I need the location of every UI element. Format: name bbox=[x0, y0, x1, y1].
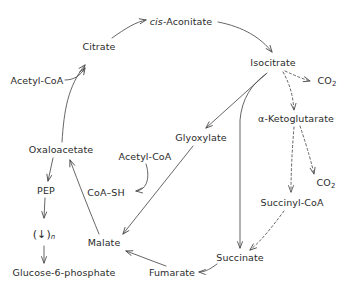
node-citrate: Citrate bbox=[83, 42, 116, 52]
edge-oxaloacetate-to-citrate bbox=[62, 65, 85, 142]
node-co2-top: CO2 bbox=[318, 76, 337, 88]
node-pep: PEP bbox=[37, 186, 55, 196]
node-coa-sh: CoA–SH bbox=[87, 188, 124, 198]
node-co2-bottom: CO2 bbox=[317, 178, 336, 190]
edge-acetyl-coa-top-to-citrate bbox=[65, 68, 85, 80]
node-alpha-ketoglutarate: α-Ketoglutarate bbox=[258, 114, 334, 124]
node-acetyl-coa-mid: Acetyl-CoA bbox=[119, 152, 172, 162]
edge-alpha-ketoglutarate-to-succinyl-coa bbox=[291, 127, 294, 192]
node-glyoxylate: Glyoxylate bbox=[175, 133, 226, 143]
edge-pep-to-repeat-steps bbox=[44, 198, 45, 218]
node-succinate: Succinate bbox=[216, 253, 263, 263]
edge-isocitrate-to-co2-top bbox=[285, 71, 310, 81]
node-cis-aconitate-prefix: cis bbox=[150, 16, 163, 27]
node-succinyl-coa: Succinyl-CoA bbox=[261, 198, 324, 208]
node-co2-bottom-label: CO bbox=[317, 177, 331, 188]
node-fumarate: Fumarate bbox=[149, 268, 195, 278]
pathway-diagram: cis-Aconitate Citrate Isocitrate Acetyl-… bbox=[0, 0, 345, 286]
edge-isocitrate-to-succinate bbox=[240, 74, 266, 248]
node-co2-top-subscript: 2 bbox=[332, 80, 337, 88]
node-isocitrate: Isocitrate bbox=[250, 58, 295, 68]
node-repeat-steps: (↓)n bbox=[33, 229, 56, 242]
node-oxaloacetate: Oxaloacetate bbox=[29, 145, 94, 155]
edge-isocitrate-to-alpha-ketoglutarate bbox=[283, 72, 294, 110]
edge-citrate-to-cis-aconitate bbox=[112, 20, 146, 38]
node-co2-top-label: CO bbox=[318, 75, 332, 86]
node-co2-bottom-subscript: 2 bbox=[331, 182, 336, 190]
node-malate: Malate bbox=[88, 238, 121, 248]
edge-fumarate-to-malate bbox=[126, 251, 166, 266]
node-glucose-6-phosphate: Glucose-6-phosphate bbox=[13, 268, 116, 278]
edge-cis-aconitate-to-isocitrate bbox=[218, 22, 272, 52]
edge-succinyl-coa-to-succinate bbox=[250, 211, 284, 250]
edge-succinate-to-fumarate bbox=[199, 264, 217, 272]
node-cis-aconitate: cis-Aconitate bbox=[150, 17, 213, 27]
node-acetyl-coa-top: Acetyl-CoA bbox=[11, 76, 64, 86]
node-repeat-steps-subscript: n bbox=[51, 233, 56, 241]
pathway-edges-layer bbox=[0, 0, 345, 286]
edge-oxaloacetate-to-pep bbox=[48, 158, 53, 181]
node-repeat-steps-label: (↓) bbox=[33, 228, 51, 241]
edge-acetyl-coa-mid-to-coa-sh bbox=[136, 164, 148, 191]
node-cis-aconitate-label: -Aconitate bbox=[163, 16, 212, 27]
edge-alpha-ketoglutarate-to-co2-bottom bbox=[300, 126, 314, 174]
